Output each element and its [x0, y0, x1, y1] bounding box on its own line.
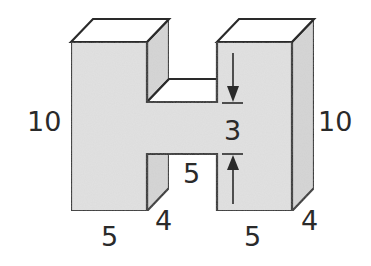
gap-width-label: 5	[183, 158, 200, 189]
h-front-face	[71, 42, 292, 211]
left-pillar-inner-side-lower	[147, 154, 169, 211]
left-base-label: 5	[101, 221, 118, 252]
right-height-label: 10	[318, 106, 352, 137]
right-depth-label: 4	[301, 205, 318, 236]
left-depth-label: 4	[155, 205, 172, 236]
right-pillar-side-face	[292, 19, 314, 211]
right-base-label: 5	[244, 221, 261, 252]
h-prism-diagram: 10 10 3 5 5 4 5 4	[0, 0, 371, 266]
left-height-label: 10	[27, 106, 61, 137]
crossbar-height-label: 3	[224, 115, 241, 146]
